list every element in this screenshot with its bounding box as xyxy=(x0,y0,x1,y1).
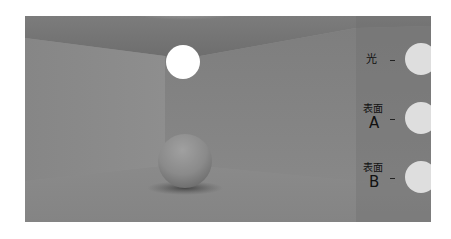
legend-letter-b: B xyxy=(369,175,379,190)
leader-line xyxy=(390,60,395,61)
surface-a-swatch xyxy=(405,102,431,134)
leader-line xyxy=(390,178,395,179)
legend-label-light: 光 xyxy=(366,55,377,65)
leader-line xyxy=(390,119,395,120)
light-swatch xyxy=(405,43,431,75)
legend-label-surface-b: 表面 xyxy=(363,163,383,173)
legend-item-light: 光 xyxy=(356,43,431,83)
room-render: 光 表面 A 表面 B xyxy=(25,16,431,222)
legend-letter-a: A xyxy=(369,116,379,131)
legend-item-surface-a: 表面 A xyxy=(356,102,431,142)
surface-b-swatch xyxy=(405,161,431,193)
legend-label-surface-a: 表面 xyxy=(363,104,383,114)
legend-panel: 光 表面 A 表面 B xyxy=(356,16,431,222)
legend-item-surface-b: 表面 B xyxy=(356,161,431,201)
